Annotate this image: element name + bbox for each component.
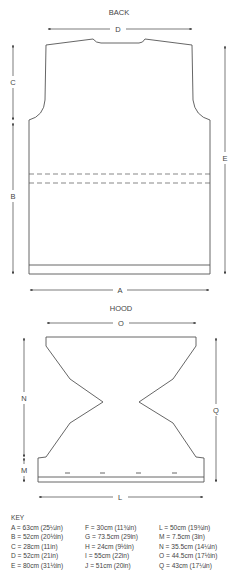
label-q: Q [213, 406, 219, 415]
label-d: D [115, 25, 121, 34]
back-title: BACK [109, 8, 129, 17]
label-c: C [10, 78, 16, 87]
key-entry-m: M = 7.5cm (3in) [159, 532, 217, 542]
dimension-n: N [21, 338, 26, 457]
label-l: L [118, 493, 122, 502]
key-entry-j: J = 51cm (20in) [85, 561, 159, 571]
dimension-b: B [10, 123, 15, 274]
key-entry-n: N = 35.5cm (14¼in) [159, 542, 217, 552]
key-entry-b: B = 52cm (20½in) [11, 532, 85, 542]
label-b: B [10, 192, 15, 201]
hood-title: HOOD [110, 304, 133, 313]
key-entry-e: E = 80cm (31½in) [11, 561, 85, 571]
key-title: KEY [11, 513, 217, 523]
key-entry-c: C = 28cm (11in) [11, 542, 85, 552]
key-entry-h: H = 24cm (9½in) [85, 542, 159, 552]
hood-outline [38, 337, 204, 482]
dimension-q: Q [213, 338, 219, 482]
dimension-e: E [222, 46, 227, 274]
key-column-1: A = 63cm (25¼in) B = 52cm (20½in) C = 28… [11, 523, 85, 571]
dimension-a: A [30, 286, 209, 295]
dimension-m: M [21, 458, 27, 482]
dimension-c: C [10, 45, 16, 120]
label-e: E [222, 154, 227, 163]
key-entry-i: I = 55cm (22in) [85, 551, 159, 561]
key-entry-l: L = 50cm (19¾in) [159, 523, 217, 533]
key-entry-o: O = 44.5cm (17½in) [159, 551, 217, 561]
dimension-l: L [39, 493, 203, 502]
key-entry-g: G = 73.5cm (29in) [85, 532, 159, 542]
key-entry-a: A = 63cm (25¼in) [11, 523, 85, 533]
back-outline [29, 39, 210, 274]
schematic-diagram: BACK D C B E A HOOD O [0, 0, 238, 573]
dimension-o: O [47, 319, 196, 328]
dimension-d: D [48, 25, 192, 34]
key-column-3: L = 50cm (19¾in) M = 7.5cm (3in) N = 35.… [159, 523, 217, 571]
label-o: O [118, 319, 124, 328]
label-m: M [21, 466, 27, 475]
key-entry-d: D = 52cm (21in) [11, 551, 85, 561]
key-entry-f: F = 30cm (11¾in) [85, 523, 159, 533]
label-a: A [117, 286, 122, 295]
label-n: N [21, 394, 26, 403]
measurement-key: KEY A = 63cm (25¼in) B = 52cm (20½in) C … [11, 513, 217, 571]
key-entry-q: Q = 43cm (17¼in) [159, 561, 217, 571]
key-column-2: F = 30cm (11¾in) G = 73.5cm (29in) H = 2… [85, 523, 159, 571]
